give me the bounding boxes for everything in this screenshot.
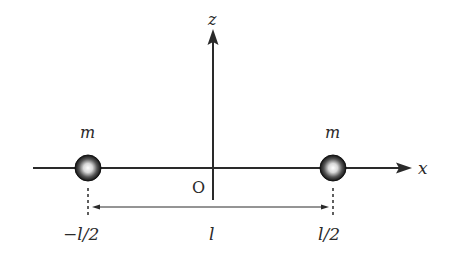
left-dimension-arrow-icon bbox=[92, 205, 100, 210]
right-position-label: l/2 bbox=[318, 224, 340, 244]
right-mass bbox=[320, 155, 346, 181]
left-mass-label: m bbox=[80, 123, 95, 142]
left-mass bbox=[75, 155, 101, 181]
separation-dimension bbox=[92, 205, 329, 210]
two-mass-diagram: x z O m −l/2 m l/2 l bbox=[0, 0, 458, 261]
separation-label: l bbox=[209, 224, 214, 244]
left-position-label: −l/2 bbox=[63, 224, 99, 244]
origin-label: O bbox=[192, 178, 205, 197]
z-axis-label: z bbox=[207, 10, 217, 29]
right-dimension-arrow-icon bbox=[321, 205, 329, 210]
right-mass-label: m bbox=[325, 123, 340, 142]
x-axis-label: x bbox=[418, 158, 428, 178]
z-axis bbox=[208, 29, 219, 200]
